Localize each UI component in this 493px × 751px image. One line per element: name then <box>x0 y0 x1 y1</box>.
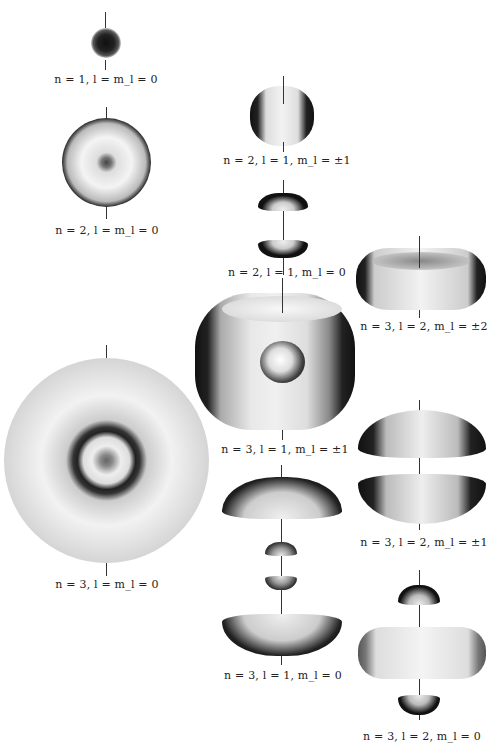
z-axis-line <box>106 207 107 219</box>
orbital-label: n = 2, l = 1, m_l = 0 <box>228 266 346 279</box>
upper-inner-lobe <box>265 542 297 556</box>
orbital-label: n = 3, l = 2, m_l = 0 <box>363 730 481 743</box>
z-axis-line <box>419 236 420 268</box>
orbital-label: n = 2, l = 1, m_l = ±1 <box>223 154 350 167</box>
orbital-label: n = 3, l = m_l = 0 <box>55 578 158 591</box>
upper-lobe <box>358 410 486 458</box>
lower-inner-lobe <box>265 576 297 590</box>
lower-lobe <box>398 695 440 715</box>
probability-cloud <box>250 86 314 146</box>
orbital-label: n = 3, l = 2, m_l = ±1 <box>360 536 487 549</box>
orbital-label: n = 1, l = m_l = 0 <box>54 73 157 86</box>
orbital-label: n = 3, l = 1, m_l = ±1 <box>221 443 348 456</box>
orbital-label: n = 2, l = m_l = 0 <box>55 224 158 237</box>
z-axis-line <box>106 345 107 359</box>
z-axis-line <box>105 60 106 70</box>
lower-lobe <box>358 474 486 524</box>
lower-lobe <box>258 240 308 258</box>
z-axis-line <box>282 430 283 440</box>
orbital-label: n = 3, l = 2, m_l = ±2 <box>360 320 487 333</box>
z-axis-line <box>283 142 284 152</box>
upper-lobe <box>258 193 308 211</box>
torus-band <box>358 627 486 679</box>
z-axis-line <box>282 278 283 313</box>
lower-outer-lobe <box>222 614 342 656</box>
orbital-label: n = 3, l = 1, m_l = 0 <box>224 669 342 682</box>
z-axis-line <box>105 12 106 28</box>
z-axis-line <box>106 563 107 576</box>
probability-cloud <box>91 28 121 58</box>
z-axis-line <box>283 76 284 104</box>
upper-lobe <box>398 585 440 605</box>
inner-shell <box>260 341 305 383</box>
upper-outer-lobe <box>222 477 342 519</box>
torus-hole <box>372 252 470 270</box>
probability-cloud <box>62 118 151 207</box>
z-axis-line <box>419 310 420 318</box>
probability-cloud <box>4 358 209 563</box>
